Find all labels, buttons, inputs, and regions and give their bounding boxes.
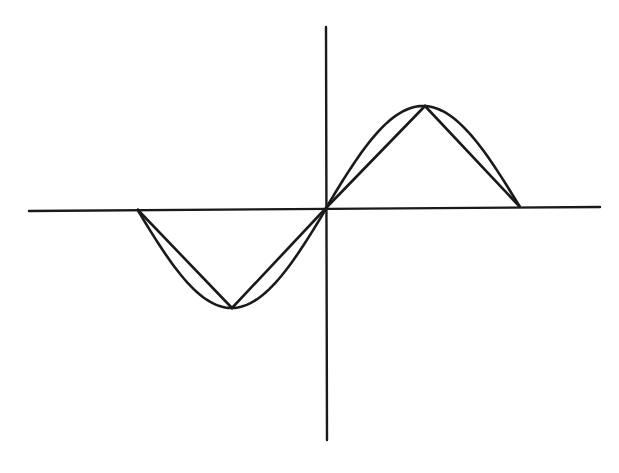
y-axis <box>326 27 327 440</box>
sine-triangle-diagram <box>0 0 619 473</box>
